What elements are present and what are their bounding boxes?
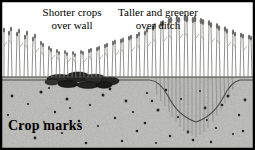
diagram-canvas (0, 0, 255, 150)
crop-marks-diagram: Shorter crops over wall Taller and green… (0, 0, 255, 150)
